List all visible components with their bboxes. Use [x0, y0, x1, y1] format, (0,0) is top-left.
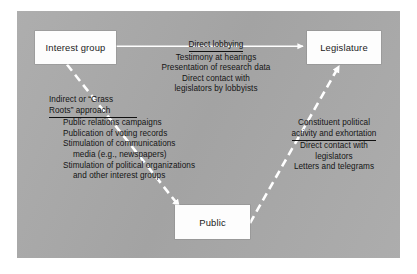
direct-lobbying-line-3: Direct contact with	[144, 74, 288, 85]
node-public-label: Public	[199, 217, 225, 228]
text-block-grass-roots: Indirect or “Grass Roots” approach Publi…	[49, 95, 234, 182]
constituent-line-2: legislators	[272, 152, 396, 163]
constituent-line-3: Letters and telegrams	[272, 162, 396, 173]
constituent-line-1: Direct contact with	[272, 141, 396, 152]
constituent-heading-line-1: Constituent political	[272, 118, 396, 129]
diagram-figure: Interest group Legislature Public Direct…	[0, 0, 417, 274]
node-legislature[interactable]: Legislature	[307, 31, 381, 64]
node-legislature-label: Legislature	[320, 42, 368, 53]
node-public[interactable]: Public	[175, 205, 250, 239]
direct-lobbying-heading: Direct lobbying	[144, 40, 288, 53]
direct-lobbying-line-2: Presentation of research data	[144, 63, 288, 74]
direct-lobbying-line-4: legislators by lobbyists	[144, 84, 288, 95]
grass-roots-heading-line-2: Roots” approach	[49, 106, 137, 118]
text-block-constituent: Constituent political activity and exhor…	[272, 118, 396, 173]
grass-roots-heading: Indirect or “Grass Roots” approach	[49, 95, 137, 118]
node-interest-group[interactable]: Interest group	[35, 31, 116, 64]
grass-roots-line-6: and other interest groups	[49, 171, 234, 182]
grass-roots-heading-line-1: Indirect or “Grass	[49, 95, 137, 106]
grass-roots-line-3: Stimulation of communications	[49, 139, 234, 150]
grass-roots-line-1: Public relations campaigns	[49, 118, 234, 129]
grass-roots-line-5: Stimulation of political organizations	[49, 161, 234, 172]
text-block-direct-lobbying: Direct lobbying Testimony at hearings Pr…	[144, 40, 288, 95]
direct-lobbying-line-1: Testimony at hearings	[144, 53, 288, 64]
constituent-heading-line-2: activity and exhortation	[292, 129, 377, 141]
grass-roots-line-2: Publication of voting records	[49, 129, 234, 140]
grass-roots-line-4: media (e.g., newspapers)	[49, 150, 234, 161]
node-interest-group-label: Interest group	[46, 42, 106, 53]
